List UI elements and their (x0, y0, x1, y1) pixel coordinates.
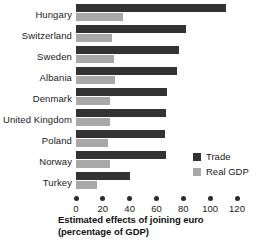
bar-real-gdp (76, 55, 114, 63)
bar-trade (76, 109, 166, 117)
legend-label: Real GDP (206, 166, 249, 177)
bar-real-gdp (76, 139, 108, 147)
x-axis-tick-label: 80 (168, 203, 198, 214)
legend-swatch-icon (193, 168, 201, 176)
x-axis-title-line2: (percentage of GDP) (58, 226, 264, 238)
x-axis-tick-label: 60 (142, 203, 172, 214)
x-axis-tick-label: 120 (222, 203, 252, 214)
x-axis-tick-label: 40 (115, 203, 145, 214)
x-axis-tick-dot (154, 196, 159, 201)
bar-trade (76, 67, 177, 75)
bar-real-gdp (76, 118, 110, 126)
bar-trade (76, 151, 166, 159)
x-axis-tick-dot (235, 196, 240, 201)
bar-real-gdp (76, 13, 123, 21)
chart-legend: TradeReal GDP (193, 151, 249, 181)
x-axis-tick-dot (74, 196, 79, 201)
category-label: Denmark (0, 92, 72, 103)
category-label: Switzerland (0, 29, 72, 40)
bar-chart: HungarySwitzerlandSwedenAlbaniaDenmarkUn… (0, 0, 264, 245)
bar-trade (76, 130, 165, 138)
bar-real-gdp (76, 160, 110, 168)
bar-row: Sweden (0, 45, 264, 66)
x-axis-tick-dot (100, 196, 105, 201)
category-label: Norway (0, 155, 72, 166)
category-label: Hungary (0, 8, 72, 19)
bar-real-gdp (76, 76, 115, 84)
x-axis-tick-dot (181, 196, 186, 201)
bar-row: Switzerland (0, 24, 264, 45)
bar-row: Denmark (0, 87, 264, 108)
x-axis-title-line1: Estimated effects of joining euro (58, 214, 264, 226)
bar-real-gdp (76, 34, 112, 42)
x-axis-title: Estimated effects of joining euro (perce… (58, 214, 264, 237)
category-label: Poland (0, 134, 72, 145)
bar-real-gdp (76, 97, 110, 105)
category-label: United Kingdom (0, 113, 72, 124)
category-label: Albania (0, 71, 72, 82)
legend-label: Trade (206, 151, 230, 162)
category-label: Turkey (0, 176, 72, 187)
x-axis: 020406080100120 (0, 192, 264, 214)
bar-row: Hungary (0, 3, 264, 24)
x-axis-tick-label: 100 (195, 203, 225, 214)
bar-row: Albania (0, 66, 264, 87)
x-axis-tick-label: 20 (88, 203, 118, 214)
x-axis-tick-dot (208, 196, 213, 201)
bar-real-gdp (76, 181, 97, 189)
legend-item: Trade (193, 151, 249, 162)
bar-trade (76, 88, 167, 96)
bar-trade (76, 25, 186, 33)
legend-item: Real GDP (193, 166, 249, 177)
bar-trade (76, 46, 179, 54)
category-label: Sweden (0, 50, 72, 61)
bar-trade (76, 172, 130, 180)
legend-swatch-icon (193, 153, 201, 161)
x-axis-tick-dot (127, 196, 132, 201)
bar-trade (76, 4, 226, 12)
bar-row: United Kingdom (0, 108, 264, 129)
x-axis-tick-label: 0 (61, 203, 91, 214)
bar-row: Poland (0, 129, 264, 150)
